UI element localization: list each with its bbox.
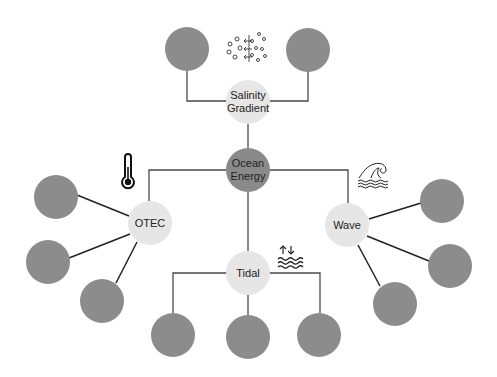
otec-label: OTEC <box>135 217 166 229</box>
wave-label: Wave <box>333 219 361 231</box>
tidal-leaf-node-1[interactable] <box>151 313 195 357</box>
wave-node[interactable]: Wave <box>325 203 369 247</box>
tidal-leaf-node-2[interactable] <box>226 315 270 359</box>
hub-label-line2: Energy <box>231 170 266 182</box>
salinity-label-line2: Gradient <box>227 102 269 114</box>
otec-leaf-node-3[interactable] <box>80 279 124 323</box>
salinity-label-line1: Salinity <box>230 89 266 101</box>
wave-leaf-node-1[interactable] <box>420 179 464 223</box>
salinity-leaf-node-2[interactable] <box>286 28 330 72</box>
tide-arrows-waves-icon <box>278 246 303 268</box>
thermometer-icon <box>122 154 134 188</box>
wave-connectors <box>358 203 429 286</box>
ocean-energy-diagram: Salinity Gradient Ocean Energy OTEC Wave… <box>0 0 497 377</box>
otec-leaf-node-2[interactable] <box>26 240 70 284</box>
wave-leaf-node-2[interactable] <box>428 244 472 288</box>
wave-leaf-node-3[interactable] <box>373 282 417 326</box>
salinity-diffusion-icon <box>227 33 267 63</box>
salinity-leaf-node-1[interactable] <box>165 27 209 71</box>
tidal-label: Tidal <box>236 267 259 279</box>
otec-connectors <box>69 195 137 283</box>
tidal-leaf-node-3[interactable] <box>297 313 341 357</box>
ocean-energy-hub-node[interactable]: Ocean Energy <box>226 148 270 192</box>
tidal-node[interactable]: Tidal <box>226 251 270 295</box>
hub-label-line1: Ocean <box>232 157 264 169</box>
ocean-wave-icon <box>358 163 388 188</box>
otec-node[interactable]: OTEC <box>128 201 172 245</box>
otec-leaf-node-1[interactable] <box>34 175 78 219</box>
salinity-gradient-node[interactable]: Salinity Gradient <box>226 80 270 124</box>
